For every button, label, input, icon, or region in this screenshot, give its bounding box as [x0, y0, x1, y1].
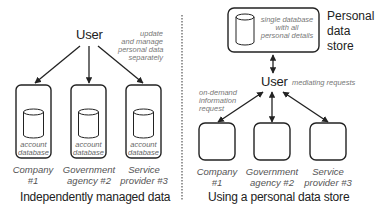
left-provider-name: Service provider #3 [113, 164, 175, 186]
db-label-line: database [16, 149, 51, 157]
store-database-icon [236, 14, 254, 45]
db-label-line: database [71, 149, 106, 157]
entity-name-line: provider #3 [113, 175, 175, 186]
entity-name-line: Service [297, 166, 359, 177]
provider-box [310, 123, 346, 160]
right-provider-name: Service provider #3 [297, 166, 359, 188]
entity-name-line: #1 [187, 177, 247, 188]
right-government-name: Government agency #2 [241, 166, 303, 188]
store-title-line: data [327, 24, 374, 39]
right-user-label: User [261, 74, 288, 89]
database-icon [134, 109, 154, 138]
database-icon [79, 109, 99, 138]
mediating-annotation: mediating requests [292, 79, 355, 87]
provider-db-label: account database [126, 141, 161, 157]
entity-name-line: agency #2 [58, 175, 120, 186]
arrow-user-provider [283, 92, 328, 122]
left-annotation: update and manage personal data separate… [118, 30, 163, 62]
right-entity-boxes [199, 123, 346, 160]
store-label-line: personal details [257, 32, 317, 40]
db-label-line: database [126, 149, 161, 157]
database-icon [24, 109, 44, 138]
left-caption: Independently managed data [20, 190, 170, 204]
entity-name-line: Government [241, 166, 303, 177]
entity-name-line: Government [58, 164, 120, 175]
left-company-name: Company #1 [3, 164, 63, 186]
right-company-name: Company #1 [187, 166, 247, 188]
left-user-label: User [76, 27, 103, 42]
left-database-icons [24, 109, 154, 138]
government-db-label: account database [71, 141, 106, 157]
entity-name-line: Company [187, 166, 247, 177]
company-db-label: account database [16, 141, 51, 157]
store-title-line: Personal [327, 9, 374, 24]
entity-name-line: provider #3 [297, 177, 359, 188]
entity-name-line: Service [113, 164, 175, 175]
left-government-name: Government agency #2 [58, 164, 120, 186]
right-caption: Using a personal data store [208, 190, 349, 204]
diagram-canvas: User update and manage personal data sep… [0, 0, 378, 217]
request-line: request [199, 105, 237, 113]
annotation-line: separately [118, 54, 163, 62]
request-annotation: on-demand information request [199, 89, 237, 113]
store-title: Personal data store [327, 9, 374, 54]
government-box [254, 123, 290, 160]
company-box [199, 123, 235, 160]
store-title-line: store [327, 39, 374, 54]
entity-name-line: agency #2 [241, 177, 303, 188]
entity-name-line: Company [3, 164, 63, 175]
store-box-label: single database with all personal detail… [257, 16, 317, 40]
arrow-user-to-company [35, 46, 80, 83]
entity-name-line: #1 [3, 175, 63, 186]
